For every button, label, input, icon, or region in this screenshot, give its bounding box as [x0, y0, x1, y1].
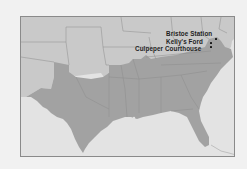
label-culpeper-courthouse: Culpeper Courthouse	[135, 46, 201, 52]
label-bristoe-station: Bristoe Station	[166, 31, 212, 37]
map-frame: Bristoe Station Kelly's Ford Culpeper Co…	[20, 16, 235, 157]
